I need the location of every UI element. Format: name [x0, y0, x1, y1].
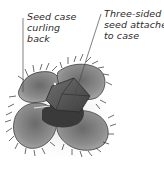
label-line: to case	[104, 30, 164, 41]
label-three-sided-seed: Three-sided seed attache to case	[104, 8, 164, 41]
label-line: Three-sided	[104, 8, 164, 19]
label-line: curling	[27, 22, 77, 33]
seed-tip	[54, 83, 56, 85]
label-line: back	[27, 33, 77, 44]
label-line: seed attache	[104, 19, 164, 30]
label-line: Seed case	[27, 11, 77, 22]
label-seed-case-curling-back: Seed case curling back	[27, 11, 77, 44]
